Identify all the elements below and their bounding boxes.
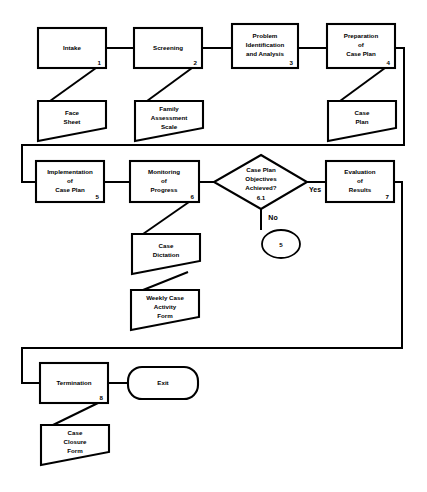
node-label-line: Form	[157, 312, 173, 319]
leader-preparation-to-case-plan	[340, 68, 385, 101]
node-label-line: Implementation	[47, 168, 93, 175]
node-face-sheet[interactable]: Face Sheet	[38, 101, 106, 141]
flowchart-canvas: Intake 1 Screening 2 Problem Identificat…	[0, 0, 427, 492]
node-evaluation-of-results[interactable]: Evaluation of Results 7	[326, 161, 394, 202]
node-monitoring-of-progress[interactable]: Monitoring of Progress 6	[130, 161, 199, 202]
node-label-line: Evaluation	[344, 168, 376, 175]
edge-evaluation-to-termination	[22, 182, 402, 383]
node-label-line: Preparation	[344, 32, 379, 39]
node-label-line: Case	[159, 242, 174, 249]
node-case-plan-document[interactable]: Case Plan	[328, 101, 396, 141]
node-preparation-of-case-plan[interactable]: Preparation of Case Plan 4	[327, 24, 395, 68]
node-label-line: Achieved?	[245, 184, 277, 191]
node-label-line: Intake	[63, 44, 81, 51]
connector-label: 5	[279, 241, 283, 248]
node-family-assessment-scale[interactable]: Family Assessment Scale	[135, 101, 203, 141]
node-label-line: Case Plan	[346, 50, 376, 57]
leader-termination-to-closure	[53, 403, 98, 425]
decision-diamond[interactable]	[214, 155, 307, 209]
node-label-line: Case	[355, 109, 370, 116]
leader-screening-to-family-assess	[147, 68, 192, 101]
node-label-line: Monitoring	[148, 168, 180, 175]
node-label-line: Family	[159, 105, 179, 112]
node-implementation-of-case-plan[interactable]: Implementation of Case Plan 5	[36, 161, 104, 202]
node-number: 2	[194, 59, 198, 66]
node-label-line: Termination	[57, 379, 92, 386]
node-label-line: Screening	[153, 44, 183, 51]
node-number: 7	[386, 193, 390, 200]
node-weekly-case-activity-form[interactable]: Weekly Case Activity Form	[131, 290, 199, 330]
node-label-line: Plan	[355, 118, 368, 125]
node-number: 4	[387, 59, 391, 66]
leader-dictation-to-weekly-form	[143, 272, 188, 290]
node-offpage-connector-5[interactable]: 5	[262, 230, 300, 258]
node-label-line: Progress	[151, 186, 178, 193]
flowchart-svg: Intake 1 Screening 2 Problem Identificat…	[0, 0, 427, 492]
leader-monitoring-to-dictation	[143, 202, 189, 234]
node-number: 6.1	[257, 194, 266, 201]
node-case-dictation[interactable]: Case Dictation	[132, 234, 200, 274]
node-label-line: Objectives	[245, 175, 277, 182]
node-label-line: of	[358, 41, 365, 48]
node-number: 1	[98, 59, 102, 66]
node-label-line: Face	[65, 109, 80, 116]
node-number: 6	[191, 193, 195, 200]
node-label-line: Form	[67, 447, 83, 454]
node-label-line: of	[161, 177, 168, 184]
edge-label-no: No	[268, 214, 277, 221]
node-label-line: Identification	[246, 41, 285, 48]
node-label-line: of	[357, 177, 364, 184]
node-exit[interactable]: Exit	[128, 367, 198, 399]
node-label-line: Case Plan	[246, 166, 276, 173]
node-number: 3	[290, 59, 294, 66]
node-label-line: Case	[68, 429, 83, 436]
node-label-line: Activity	[154, 303, 177, 310]
node-label-line: Problem	[253, 32, 278, 39]
node-label-line: Dictation	[153, 251, 180, 258]
node-label-line: Sheet	[64, 118, 81, 125]
node-label-line: Weekly Case	[146, 294, 184, 301]
node-label-line: Exit	[157, 379, 168, 386]
node-termination[interactable]: Termination 8	[40, 363, 108, 403]
node-intake[interactable]: Intake 1	[38, 28, 106, 68]
node-number: 5	[96, 193, 100, 200]
node-label-line: Case Plan	[55, 186, 85, 193]
leader-intake-to-face-sheet	[50, 68, 96, 101]
node-problem-identification[interactable]: Problem Identification and Analysis 3	[232, 24, 298, 68]
node-label-line: Assessment	[151, 114, 187, 121]
node-screening[interactable]: Screening 2	[134, 28, 202, 68]
node-label-line: Results	[349, 186, 372, 193]
node-label-line: of	[67, 177, 74, 184]
node-case-closure-form[interactable]: Case Closure Form	[41, 425, 109, 465]
node-number: 8	[100, 394, 104, 401]
node-label-line: and Analysis	[246, 50, 284, 57]
node-label-line: Closure	[63, 438, 87, 445]
node-decision-objectives-achieved[interactable]: Case Plan Objectives Achieved? 6.1	[214, 155, 307, 209]
node-label-line: Scale	[161, 123, 178, 130]
edge-label-yes: Yes	[309, 186, 321, 193]
